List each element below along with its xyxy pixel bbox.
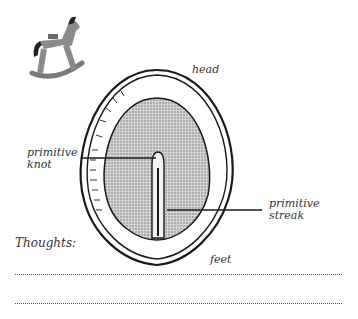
notes-line-2[interactable] [15, 303, 342, 304]
label-primitive-knot-line2: knot [27, 159, 77, 171]
label-feet: feet [210, 254, 232, 266]
thoughts-label: Thoughts: [15, 236, 76, 250]
label-head: head [192, 64, 219, 76]
label-primitive-knot: primitive knot [27, 147, 77, 171]
label-primitive-streak: primitive streak [269, 198, 319, 222]
label-primitive-streak-line2: streak [269, 210, 319, 222]
notes-line-1[interactable] [15, 274, 342, 275]
